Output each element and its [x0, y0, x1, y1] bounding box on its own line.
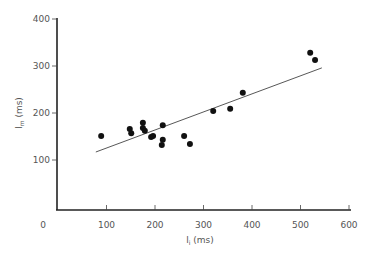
y-axis-label: lm (ms) [14, 97, 25, 129]
x-tick-label: 100 [98, 220, 115, 230]
regression-line [96, 68, 322, 152]
y-tick-label: 200 [33, 108, 50, 118]
y-tick-label: 100 [33, 155, 50, 165]
data-points [98, 50, 318, 148]
x-tick-label: 600 [340, 220, 357, 230]
axes [56, 18, 351, 210]
data-point [142, 128, 148, 134]
x-tick-label: 0 [40, 220, 46, 230]
data-point [160, 122, 166, 128]
scatter-chart: 0100200300400500600100200300400 li (ms) … [0, 0, 372, 256]
y-tick-label: 400 [33, 14, 50, 24]
data-point [98, 133, 104, 139]
x-tick-label: 200 [146, 220, 163, 230]
y-tick-label: 300 [33, 61, 50, 71]
data-point [128, 130, 134, 136]
x-tick-label: 500 [292, 220, 309, 230]
data-point [210, 108, 216, 114]
data-point [187, 141, 193, 147]
x-tick-label: 400 [243, 220, 260, 230]
data-point [150, 133, 156, 139]
data-point [181, 133, 187, 139]
data-point [140, 120, 146, 126]
data-point [227, 106, 233, 112]
data-point [160, 137, 166, 143]
data-point [307, 50, 313, 56]
x-tick-label: 300 [195, 220, 212, 230]
x-axis-label: li (ms) [186, 235, 214, 246]
ticks: 0100200300400500600100200300400 [33, 14, 358, 230]
data-point [312, 57, 318, 63]
data-point [240, 90, 246, 96]
data-point [159, 142, 165, 148]
